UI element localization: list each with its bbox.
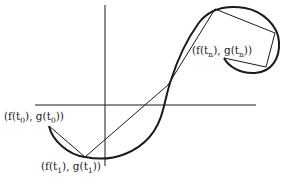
label-end-point: (f(tn), g(tn)) — [192, 44, 252, 59]
polygonal-approximation — [49, 9, 275, 157]
label-start-point: (f(t0), g(t0)) — [4, 110, 64, 125]
parametric-curve-diagram: (f(t0), g(t0)) (f(t1), g(t1)) (f(tn), g(… — [0, 0, 293, 184]
label-second-point: (f(t1), g(t1)) — [41, 160, 101, 175]
parametric-curve — [49, 7, 279, 158]
